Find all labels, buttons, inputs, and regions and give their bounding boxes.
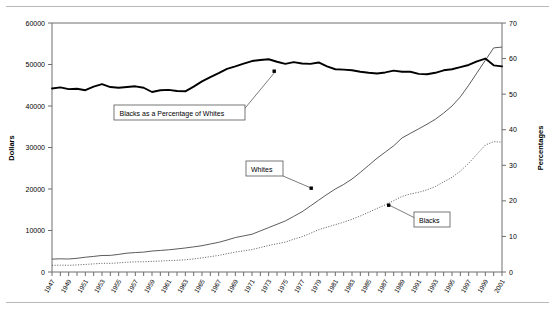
y2-axis-tick-labels: 010203040506070 [509,20,517,276]
annotation-blacks: Blacks [387,204,450,228]
y-axis-title: Dollars [7,135,16,160]
y-axis-tick-label: 60000 [26,20,46,27]
x-axis-tick-label: 1997 [459,278,472,294]
x-axis-tick-label: 1975 [276,278,289,294]
y2-axis-ticks [502,23,506,272]
x-axis-tick-label: 2001 [493,278,506,294]
y-axis-ticks [48,23,52,272]
x-axis-tick-label: 1949 [59,278,72,294]
y2-axis-tick-label: 30 [509,162,517,169]
annotation-leader-line [283,176,311,188]
x-axis-tick-label: 1971 [243,278,256,294]
annotation-arrow-head [273,70,276,73]
x-axis-tick-label: 1989 [393,278,406,294]
annotation-leader-line [241,72,275,113]
axis-frame [52,23,502,272]
series-line-blacks-as-a-percentage-of-whites [52,59,502,92]
x-axis-tick-label: 1995 [443,278,456,294]
x-axis-tick-label: 1953 [93,278,106,294]
data-series-group [52,47,502,265]
y-axis-tick-label: 20000 [26,186,46,193]
x-axis-tick-label: 1977 [293,278,306,294]
x-axis-tick-label: 1959 [143,278,156,294]
x-axis-tick-label: 1955 [109,278,122,294]
y2-axis-tick-label: 10 [509,233,517,240]
annotation-arrow-head [387,204,390,207]
x-axis-tick-label: 1947 [43,278,56,294]
x-axis-tick-labels: 1947194919511953195519571959196119631965… [43,278,506,294]
y-axis-tick-label: 40000 [26,103,46,110]
line-chart-canvas: 0100002000030000400005000060000 01020304… [0,0,555,314]
annotation-label: Whites [251,166,273,173]
y2-axis-tick-label: 40 [509,126,517,133]
y-axis-tick-label: 30000 [26,144,46,151]
y-axis-tick-label: 0 [41,269,45,276]
y2-axis-tick-label: 60 [509,55,517,62]
y-axis-tick-labels: 0100002000030000400005000060000 [26,20,46,276]
y-axis-tick-label: 50000 [26,61,46,68]
x-axis-tick-label: 1999 [476,278,489,294]
axes-group [52,23,502,272]
x-axis-tick-label: 1963 [176,278,189,294]
x-axis-tick-label: 1969 [226,278,239,294]
x-axis-tick-label: 1991 [409,278,422,294]
x-axis-tick-label: 1981 [326,278,339,294]
x-axis-tick-label: 1967 [209,278,222,294]
x-axis-tick-label: 1951 [76,278,89,294]
y2-axis-tick-label: 20 [509,197,517,204]
annotation-arrow-head [310,187,313,190]
x-axis-tick-label: 1965 [193,278,206,294]
x-axis-tick-label: 1973 [259,278,272,294]
y2-axis-tick-label: 50 [509,91,517,98]
y2-axis-tick-label: 0 [509,269,513,276]
x-axis-tick-label: 1993 [426,278,439,294]
annotation-leader-line [389,205,415,218]
x-axis-tick-label: 1987 [376,278,389,294]
x-axis-tick-label: 1961 [159,278,172,294]
x-axis-ticks [52,272,502,276]
x-axis-tick-label: 1957 [126,278,139,294]
annotation-percentage: Blacks as a Percentage of Whites [114,70,276,121]
chart-figure: 0100002000030000400005000060000 01020304… [0,0,555,314]
y2-axis-title: Percentages [536,126,545,171]
series-line-blacks [52,142,502,266]
annotation-label: Blacks as a Percentage of Whites [120,110,225,118]
x-axis-tick-label: 1979 [309,278,322,294]
x-axis-tick-label: 1983 [343,278,356,294]
y-axis-tick-label: 10000 [26,227,46,234]
annotation-whites: Whites [246,161,313,190]
y2-axis-tick-label: 70 [509,20,517,27]
annotation-label: Blacks [419,217,440,224]
x-axis-tick-label: 1985 [359,278,372,294]
